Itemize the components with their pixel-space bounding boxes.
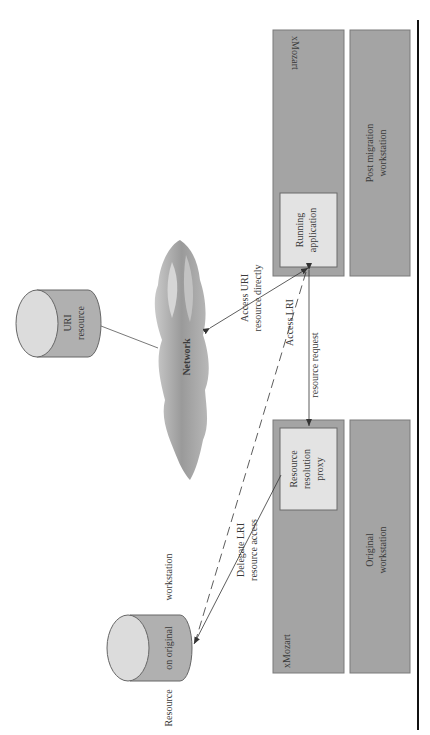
uri-resource-line1: URI: [62, 314, 73, 331]
delegate-lri-label: Delegate LRI resource access: [235, 519, 259, 581]
diagram-canvas: xMozart Running application Post migrati…: [0, 0, 430, 735]
network-cloud: Network: [155, 240, 209, 480]
access-uri-label: Access URI resource directly: [239, 265, 263, 332]
running-app-line2: application: [307, 208, 318, 252]
access-uri-line1: Access URI: [239, 274, 250, 322]
access-lri-line2: resource request: [309, 332, 320, 397]
orig-resource-part3: workstation: [163, 553, 174, 600]
proxy-line2: resolution: [301, 449, 312, 489]
post-migration-line2: workstation: [377, 129, 388, 176]
uri-resource-line2: resource: [75, 306, 86, 340]
proxy-line1: Resource: [288, 450, 299, 488]
access-lri-line1: Access LRI: [284, 299, 295, 346]
running-app-line1: Running: [294, 213, 305, 247]
access-lri-label: Access LRI: [284, 299, 295, 346]
delegate-lri-line1: Delegate LRI: [235, 523, 246, 577]
network-label: Network: [181, 338, 192, 376]
original-ws-line2: workstation: [377, 526, 388, 573]
resource-resolution-proxy-box: Resource resolution proxy: [280, 428, 337, 510]
bottom-xmozart-label: xMozart: [281, 634, 292, 668]
uri-network-link: [101, 326, 158, 348]
running-application-box: Running application: [280, 193, 337, 267]
post-migration-line1: Post migration: [364, 124, 375, 183]
original-workstation-box: Original workstation: [350, 420, 410, 673]
post-migration-workstation-box: Post migration workstation: [350, 30, 410, 276]
original-resource-cylinder: Resource on original workstation: [107, 553, 192, 726]
uri-resource-cylinder: URI resource: [16, 290, 101, 357]
access-uri-line2: resource directly: [252, 265, 263, 332]
orig-resource-part2: on original: [163, 626, 174, 670]
proxy-line3: proxy: [314, 457, 325, 480]
top-xmozart-label: xMozart: [290, 36, 301, 70]
orig-resource-part1: Resource: [163, 689, 174, 727]
original-ws-line1: Original: [364, 533, 375, 567]
delegate-lri-line2: resource access: [248, 519, 259, 581]
